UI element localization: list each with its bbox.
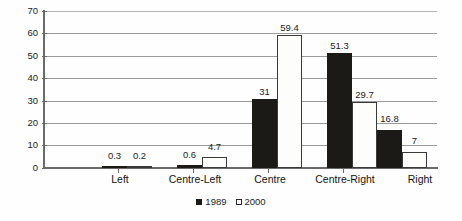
y-tick-label-30: 30 bbox=[8, 96, 38, 106]
legend-label-2000: 2000 bbox=[245, 196, 266, 207]
y-tick-label-20: 20 bbox=[8, 118, 38, 128]
open-square-icon bbox=[236, 199, 242, 205]
filled-square-icon bbox=[196, 199, 202, 205]
chart-legend: 1989 2000 bbox=[0, 196, 462, 207]
bar-2000-right[interactable] bbox=[402, 152, 427, 168]
bar-2000-centre-right[interactable] bbox=[352, 102, 377, 168]
y-axis-tick-labels: 70 60 50 40 30 20 10 0 bbox=[4, 0, 38, 180]
y-tick-label-40: 40 bbox=[8, 73, 38, 83]
legend-entry-2000[interactable]: 2000 bbox=[236, 196, 266, 207]
bar-value-1989-centre: 31 bbox=[242, 87, 287, 97]
x-axis-category-labels: Left Centre-Left Centre Centre-Right Rig… bbox=[44, 173, 438, 189]
legend-entry-1989[interactable]: 1989 bbox=[196, 196, 226, 207]
bar-chart: 70 60 50 40 30 20 10 0 0.3 0.2 0.6 4.7 3… bbox=[0, 0, 462, 221]
bar-1989-centre-left[interactable] bbox=[177, 165, 202, 168]
y-tick-label-70: 70 bbox=[8, 6, 38, 16]
bar-2000-centre[interactable] bbox=[277, 35, 302, 168]
bar-1989-left[interactable] bbox=[102, 166, 127, 168]
bar-2000-left[interactable] bbox=[127, 166, 152, 168]
y-tick-label-50: 50 bbox=[8, 51, 38, 61]
bar-value-1989-centre-right: 51.3 bbox=[317, 41, 362, 51]
bar-value-2000-right: 7 bbox=[392, 136, 437, 146]
y-tick-label-0: 0 bbox=[8, 163, 38, 173]
bar-1989-centre-right[interactable] bbox=[327, 53, 352, 168]
y-tick-mark-0 bbox=[42, 168, 47, 169]
y-tick-label-60: 60 bbox=[8, 28, 38, 38]
bar-value-2000-centre-left: 4.7 bbox=[192, 142, 237, 152]
bar-value-2000-centre-right: 29.7 bbox=[342, 90, 387, 100]
bar-value-1989-right: 16.8 bbox=[367, 114, 412, 124]
bars-container: 0.3 0.2 0.6 4.7 31 59.4 51.3 29.7 16.8 7 bbox=[44, 11, 437, 168]
bar-value-2000-left: 0.2 bbox=[117, 151, 162, 161]
y-tick-label-10: 10 bbox=[8, 140, 38, 150]
category-label-right: Right bbox=[360, 173, 462, 186]
legend-label-1989: 1989 bbox=[205, 196, 226, 207]
bar-1989-centre[interactable] bbox=[252, 99, 277, 168]
bar-value-2000-centre: 59.4 bbox=[267, 23, 312, 33]
